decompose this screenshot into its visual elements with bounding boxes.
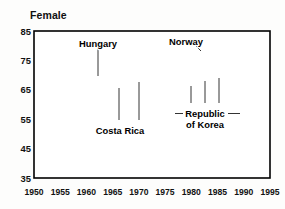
y-axis-ticks: 85 75 65 55 45 35 <box>21 26 31 184</box>
chart-container: Female <box>0 0 285 209</box>
x-axis-ticks: 1950 1955 1960 1965 1970 1975 1980 1985 … <box>24 187 279 197</box>
x-tick-1965: 1965 <box>103 187 122 197</box>
x-tick-1960: 1960 <box>77 187 96 197</box>
annotation-republic-of-korea-line1: Republic <box>185 108 225 119</box>
x-tick-1995: 1995 <box>260 187 279 197</box>
annotation-norway: Norway <box>169 36 204 47</box>
x-tick-1980: 1980 <box>182 187 201 197</box>
annotation-hungary: Hungary <box>79 38 118 49</box>
x-tick-1955: 1955 <box>51 187 70 197</box>
x-tick-1985: 1985 <box>208 187 227 197</box>
y-tick-75: 75 <box>21 55 31 66</box>
y-tick-65: 65 <box>21 84 31 95</box>
x-tick-1950: 1950 <box>24 187 43 197</box>
x-tick-1970: 1970 <box>129 187 148 197</box>
annotation-costa-rica: Costa Rica <box>96 125 145 136</box>
y-tick-35: 35 <box>21 173 31 184</box>
annotation-republic-of-korea-line2: of Korea <box>186 119 225 130</box>
line-chart-plot: 85 75 65 55 45 35 1950 1955 1960 1965 19… <box>0 0 285 209</box>
plot-frame <box>34 31 270 178</box>
y-tick-55: 55 <box>21 114 31 125</box>
y-tick-85: 85 <box>21 26 31 37</box>
x-tick-1975: 1975 <box>156 187 175 197</box>
y-tick-45: 45 <box>21 143 31 154</box>
x-tick-1990: 1990 <box>234 187 253 197</box>
